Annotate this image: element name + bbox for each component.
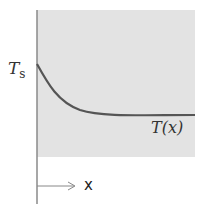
diagram-graphics — [0, 0, 206, 214]
curve-label: T(x) — [151, 118, 183, 137]
temperature-profile-diagram: Ts T(x) x — [0, 0, 206, 214]
surface-temperature-label: Ts — [8, 58, 26, 78]
temperature-curve — [37, 64, 195, 115]
x-axis-label: x — [84, 176, 93, 194]
